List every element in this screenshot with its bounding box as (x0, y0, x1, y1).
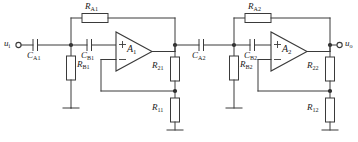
label-resistor-ra2: RA2 (248, 2, 261, 12)
label-resistor-r22: R22 (307, 61, 319, 71)
output-terminal-circle (337, 42, 342, 47)
input-terminal-label: ui (4, 39, 10, 49)
label-capacitor-cb1: CB1 (81, 51, 94, 61)
label-resistor-r21: R21 (152, 61, 164, 71)
resistor-ra2-body (245, 14, 271, 23)
label-resistor-ra1: RA1 (85, 2, 98, 12)
label-resistor-rb2: RB2 (240, 60, 253, 70)
resistor-r22-body (326, 57, 335, 81)
resistor-r21-body (171, 57, 180, 81)
output-terminal-label: uo (345, 39, 353, 49)
input-terminal-circle (16, 42, 21, 47)
label-resistor-r11: R11 (152, 103, 163, 113)
resistor-rb1-body (67, 56, 76, 80)
schematic-drawing (0, 0, 358, 142)
resistor-r11-body (171, 98, 180, 122)
resistor-r12-body (326, 98, 335, 122)
label-opamp-a1: A1 (127, 44, 137, 55)
label-capacitor-cb2: CB2 (244, 51, 257, 61)
resistor-ra1-body (82, 14, 108, 23)
label-capacitor-ca1: CA1 (27, 51, 40, 61)
label-resistor-r12: R12 (307, 103, 319, 113)
resistor-rb2-body (230, 56, 239, 80)
label-resistor-rb1: RB1 (77, 60, 90, 70)
circuit-diagram: ui RA1 CA1 RB1 CB1 A1 R21 R11 RA2 CA2 RB… (0, 0, 358, 142)
label-capacitor-ca2: CA2 (192, 51, 205, 61)
label-opamp-a2: A2 (282, 44, 292, 55)
